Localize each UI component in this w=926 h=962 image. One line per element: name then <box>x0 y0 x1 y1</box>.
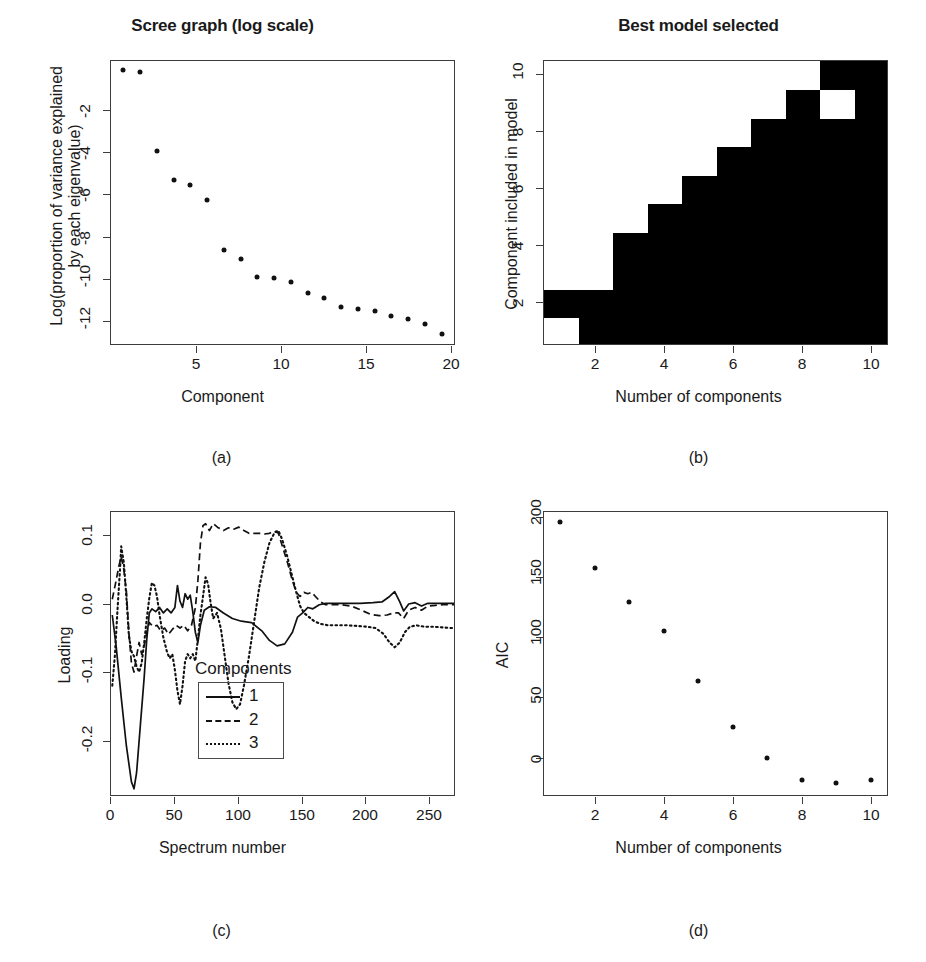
panel-a-ytick-label: -6 <box>76 182 94 208</box>
heatmap-cell <box>682 318 717 346</box>
panel-d-ylabel: AIC <box>494 595 512 715</box>
panel-d-ytick-label: 100 <box>527 609 545 655</box>
panel-c-legend-item[interactable]: 1 <box>206 686 258 706</box>
panel-b-plot-area <box>543 60 888 345</box>
heatmap-cell <box>855 118 889 147</box>
heatmap-cell <box>544 289 579 318</box>
panel-d-ytick-label: 0 <box>527 746 545 772</box>
panel-a-ytick-mark <box>103 279 110 280</box>
panel-a-ytick-label: -4 <box>76 140 94 166</box>
panel-c-legend-item[interactable]: 3 <box>206 733 258 753</box>
heatmap-cell <box>613 118 648 147</box>
heatmap-cell <box>855 147 889 176</box>
panel-d-xtick-label: 8 <box>798 806 807 824</box>
heatmap-cell <box>717 318 752 346</box>
panel-a-xtick-label: 20 <box>442 355 459 373</box>
data-point <box>765 755 770 760</box>
data-point <box>221 248 226 253</box>
heatmap-cell <box>682 147 717 176</box>
heatmap-cell <box>544 90 579 119</box>
panel-b-ytick-label: 6 <box>509 176 527 202</box>
panel-b-xtick-mark <box>595 346 596 353</box>
heatmap-cell <box>648 61 683 90</box>
heatmap-cell <box>579 147 614 176</box>
heatmap-cell <box>544 261 579 290</box>
heatmap-cell <box>613 204 648 233</box>
panel-b-xtick-label: 2 <box>591 355 600 373</box>
panel-c-ytick-label: 0.0 <box>78 589 96 619</box>
heatmap-cell <box>786 90 821 119</box>
data-point <box>121 67 126 72</box>
data-point <box>406 317 411 322</box>
panel-a-ytick-mark <box>103 110 110 111</box>
heatmap-cell <box>613 175 648 204</box>
heatmap-cell <box>786 204 821 233</box>
data-point <box>372 308 377 313</box>
panel-b-xtick-label: 10 <box>862 355 879 373</box>
panel-c-legend-item[interactable]: 2 <box>206 710 258 730</box>
panel-b-ytick-mark <box>536 131 543 132</box>
heatmap-cell <box>579 318 614 346</box>
data-point <box>799 778 804 783</box>
panel-d-ytick-label: 150 <box>527 549 545 595</box>
data-point <box>355 306 360 311</box>
legend-key-dotted-icon <box>206 737 240 749</box>
panel-a-xtick-mark <box>281 346 282 353</box>
panel-c-xtick-label: 50 <box>165 806 182 824</box>
panel-d-xtick-mark <box>595 797 596 804</box>
heatmap-cell <box>820 318 855 346</box>
panel-c-ytick-label: 0.1 <box>78 520 96 550</box>
heatmap-cell <box>544 204 579 233</box>
data-point <box>696 678 701 683</box>
heatmap-cell <box>579 261 614 290</box>
heatmap-cell <box>682 261 717 290</box>
data-point <box>627 600 632 605</box>
heatmap-cell <box>682 289 717 318</box>
panel-b-title: Best model selected <box>471 16 926 36</box>
data-point <box>558 519 563 524</box>
panel-c-ytick-mark <box>103 672 110 673</box>
heatmap-cell <box>820 204 855 233</box>
heatmap-cell <box>820 147 855 176</box>
heatmap-cell <box>613 289 648 318</box>
panel-d-ytick-label: 200 <box>527 489 545 535</box>
heatmap-cell <box>751 232 786 261</box>
heatmap-cell <box>751 175 786 204</box>
panel-b-ytick-label: 10 <box>509 52 527 90</box>
data-point <box>389 314 394 319</box>
panel-c-ytick-mark <box>103 741 110 742</box>
panel-c-xtick-mark <box>429 797 430 804</box>
heatmap-cell <box>751 147 786 176</box>
heatmap-cell <box>579 289 614 318</box>
panel-a-ytick-label: -8 <box>76 225 94 251</box>
data-point <box>422 321 427 326</box>
heatmap-cell <box>579 90 614 119</box>
data-point <box>188 183 193 188</box>
panel-d-ytick-label: 50 <box>527 677 545 713</box>
heatmap-cell <box>855 61 889 90</box>
heatmap-cell <box>613 232 648 261</box>
panel-d-xtick-mark <box>871 797 872 804</box>
heatmap-cell <box>751 204 786 233</box>
heatmap-cell <box>751 118 786 147</box>
panel-a-ytick-mark <box>103 237 110 238</box>
panel-b-ytick-mark <box>536 188 543 189</box>
panel-a-xtick-label: 10 <box>272 355 289 373</box>
heatmap-cell <box>648 289 683 318</box>
panel-b-caption: (b) <box>471 449 926 467</box>
data-point <box>205 198 210 203</box>
heatmap-cell <box>786 318 821 346</box>
panel-c-xtick-label: 250 <box>416 806 442 824</box>
heatmap-cell <box>717 147 752 176</box>
heatmap-cell <box>717 175 752 204</box>
panel-c-xtick-label: 150 <box>289 806 315 824</box>
heatmap-cell <box>855 261 889 290</box>
heatmap-cell <box>544 175 579 204</box>
panel-c-xlabel: Spectrum number <box>0 839 463 857</box>
heatmap-cell <box>682 175 717 204</box>
heatmap-cell <box>613 61 648 90</box>
panel-d-xtick-mark <box>664 797 665 804</box>
heatmap-cell <box>717 61 752 90</box>
heatmap-cell <box>648 118 683 147</box>
panel-c-xtick-mark <box>302 797 303 804</box>
